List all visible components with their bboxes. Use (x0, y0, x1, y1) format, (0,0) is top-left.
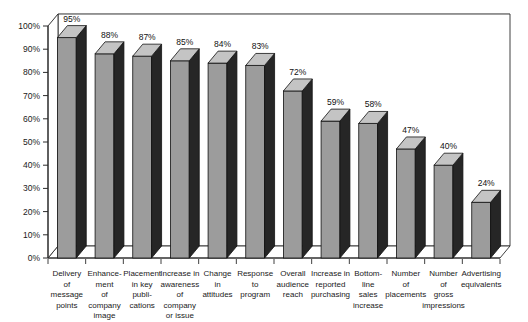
x-axis-category-label: Advertising (461, 269, 501, 278)
y-axis-tick-label: 0% (28, 253, 41, 263)
bar-value-label: 83% (252, 41, 269, 51)
x-axis-category-label: in key (132, 280, 153, 289)
bar-value-label: 95% (63, 14, 80, 24)
bar-chart-figure: 0%10%20%30%40%50%60%70%80%90%100% 95%88%… (0, 0, 528, 322)
x-axis-category-label: Increase in (160, 269, 199, 278)
x-axis-category-label: audience (277, 280, 310, 289)
y-axis-tick-label: 10% (23, 230, 40, 240)
x-axis-category-label: line (362, 280, 375, 289)
bar-value-label: 24% (478, 178, 495, 188)
x-axis-category-label: Overall (280, 269, 306, 278)
x-axis-category-label: Response (237, 269, 274, 278)
bar-value-label: 40% (440, 141, 457, 151)
x-axis-category-label: Increase in (311, 269, 350, 278)
y-axis-tick-label: 70% (23, 91, 40, 101)
x-axis-category-label: increase (353, 301, 384, 310)
bar-column (95, 42, 124, 258)
x-axis-category-label: Delivery (52, 269, 81, 278)
x-axis-category-label: gross (434, 290, 454, 299)
x-axis-category-label: Change (203, 269, 232, 278)
y-axis-tick-label: 40% (23, 160, 40, 170)
bar-value-label: 59% (327, 97, 344, 107)
x-axis-category-label: purchasing (311, 290, 350, 299)
bar-column (472, 190, 501, 258)
x-axis-category-label: of (101, 290, 108, 299)
x-axis-category-label: of (402, 280, 409, 289)
x-axis-category-label: awareness (160, 280, 199, 289)
x-axis-category-label: Placement (123, 269, 162, 278)
y-axis-tick-label: 50% (23, 137, 40, 147)
y-axis-tick-label: 90% (23, 44, 40, 54)
x-axis-category-label: image (94, 311, 116, 320)
bar-column (133, 44, 162, 258)
x-axis-category-label: Number (429, 269, 458, 278)
x-axis-category-label: placements (385, 290, 426, 299)
x-axis-category-label: program (240, 290, 270, 299)
bar-value-label: 47% (402, 125, 419, 135)
bar-column (396, 137, 425, 258)
y-axis-tick-label: 20% (23, 207, 40, 217)
bar-column (57, 26, 86, 258)
y-axis-tick-label: 80% (23, 67, 40, 77)
x-axis-category-label: points (56, 301, 77, 310)
x-axis-category-label: sales (359, 290, 378, 299)
bar-column (283, 79, 312, 258)
x-axis-category-label: attitudes (202, 290, 232, 299)
bar-value-label: 87% (139, 32, 156, 42)
x-axis-category-label: or issue (166, 311, 195, 320)
x-axis-category-label: cations (129, 301, 154, 310)
x-axis-category-labels: DeliveryofmessagepointsEnhance-mentofcom… (51, 269, 502, 320)
y-axis-tick-label: 60% (23, 114, 40, 124)
bar-column (359, 111, 388, 258)
chart-canvas: 0%10%20%30%40%50%60%70%80%90%100% 95%88%… (0, 0, 528, 322)
x-axis-category-label: Number (392, 269, 421, 278)
x-axis-category-label: equivalents (461, 280, 501, 289)
bar-value-label: 88% (101, 30, 118, 40)
x-axis-category-label: company (164, 301, 196, 310)
x-axis-category-label: of (63, 280, 70, 289)
x-axis-category-label: impressions (422, 301, 465, 310)
bar-column (321, 109, 350, 258)
bar-column (208, 51, 237, 258)
x-axis-category-label: ment (96, 280, 115, 289)
bar-value-label: 58% (365, 99, 382, 109)
bar-column (434, 153, 463, 258)
x-axis-category-label: reported (316, 280, 346, 289)
bar-column (170, 49, 199, 258)
bar-column (246, 53, 275, 258)
x-axis-category-label: Bottom- (354, 269, 382, 278)
x-axis-category-label: company (88, 301, 120, 310)
bar-value-label: 84% (214, 39, 231, 49)
y-axis-tick-label: 100% (18, 21, 40, 31)
x-axis-category-label: in (214, 280, 220, 289)
x-axis-category-label: reach (283, 290, 303, 299)
bar-value-label: 85% (176, 37, 193, 47)
y-axis-tick-label: 30% (23, 183, 40, 193)
x-axis-category-label: of (440, 280, 447, 289)
x-axis-category-label: Enhance- (87, 269, 122, 278)
x-axis-category-label: message (51, 290, 84, 299)
bar-value-label: 72% (289, 67, 306, 77)
x-axis-category-label: of (176, 290, 183, 299)
y-axis-tick-labels: 0%10%20%30%40%50%60%70%80%90%100% (18, 21, 40, 263)
x-axis-category-label: to (252, 280, 259, 289)
x-axis-category-label: publi- (132, 290, 152, 299)
